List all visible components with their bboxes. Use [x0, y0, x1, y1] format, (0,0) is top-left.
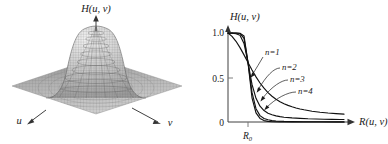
surface-v-axis-arrow	[132, 108, 161, 124]
curve-label-n4: n=4	[298, 86, 313, 96]
curve-label-n1: n=1	[265, 47, 280, 57]
y-tick-label-1: 1.0	[212, 28, 224, 38]
x-axis-title: R(u, v)	[358, 116, 388, 128]
annotation-n1: n=1	[250, 47, 279, 78]
y-axis-title: H(u, v)	[229, 11, 260, 23]
cross-section-plot-panel: H(u, v) R(u, v) 1.0 0.5 0 R0	[194, 0, 388, 144]
surface-plot-svg: H(u, v) u v	[0, 0, 194, 144]
surface-u-axis-label: u	[16, 115, 21, 126]
y-tick-label-3: 0	[219, 118, 224, 128]
x-tick-label-r0-sub: 0	[249, 135, 253, 142]
cross-section-plot-svg: H(u, v) R(u, v) 1.0 0.5 0 R0	[194, 0, 388, 144]
surface-v-axis-label: v	[168, 117, 173, 128]
surface-plot-panel: H(u, v) u v	[0, 0, 194, 144]
y-tick-label-2: 0.5	[212, 74, 224, 84]
y-axis	[225, 25, 231, 122]
surface-u-axis-arrow	[27, 110, 46, 124]
curve-set	[228, 33, 344, 122]
curve-label-n3: n=3	[290, 74, 305, 84]
annotation-n4: n=4	[264, 86, 313, 110]
curve-n4	[228, 33, 344, 122]
curve-label-n2: n=2	[282, 62, 297, 72]
surface-z-axis-label: H(u, v)	[80, 3, 111, 15]
x-tick-label-r0: R0	[242, 131, 253, 142]
figure-container: H(u, v) u v	[0, 0, 388, 144]
